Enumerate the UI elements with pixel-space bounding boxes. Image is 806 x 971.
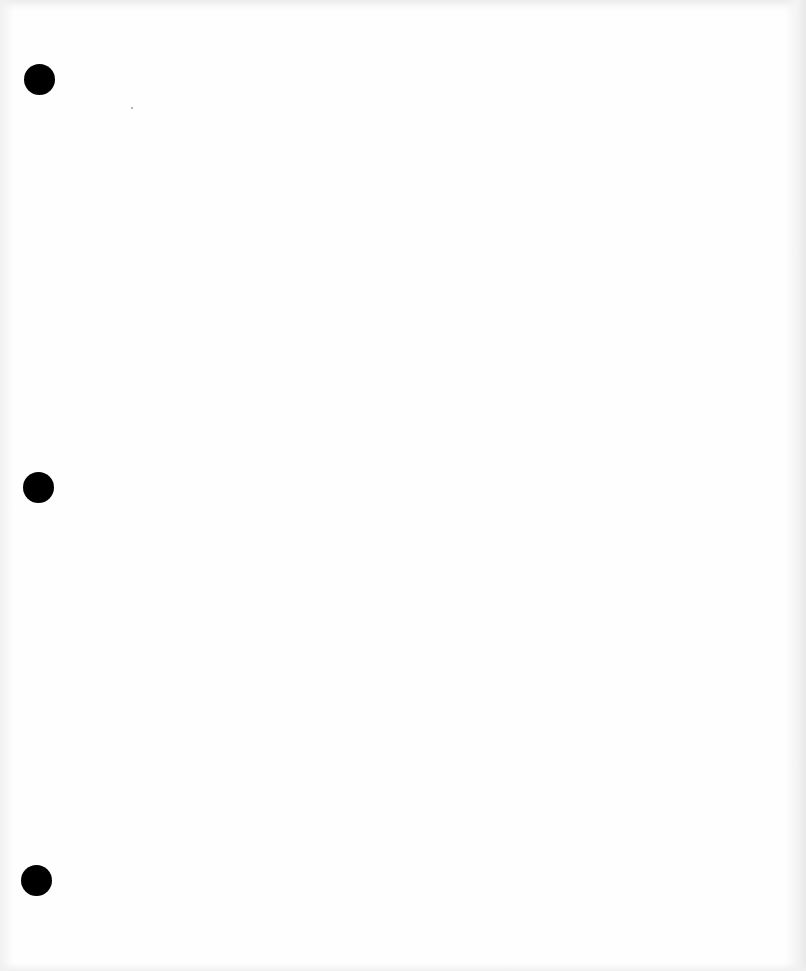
punch-hole-top	[24, 64, 55, 95]
scan-speck	[131, 107, 133, 109]
scan-shadow-top	[0, 0, 806, 10]
scan-shadow-bottom	[0, 963, 806, 971]
punch-hole-middle	[23, 472, 54, 503]
scan-shadow-left	[0, 0, 14, 971]
blank-page	[0, 0, 806, 971]
scan-shadow-right	[784, 0, 806, 971]
punch-hole-bottom	[21, 865, 52, 896]
